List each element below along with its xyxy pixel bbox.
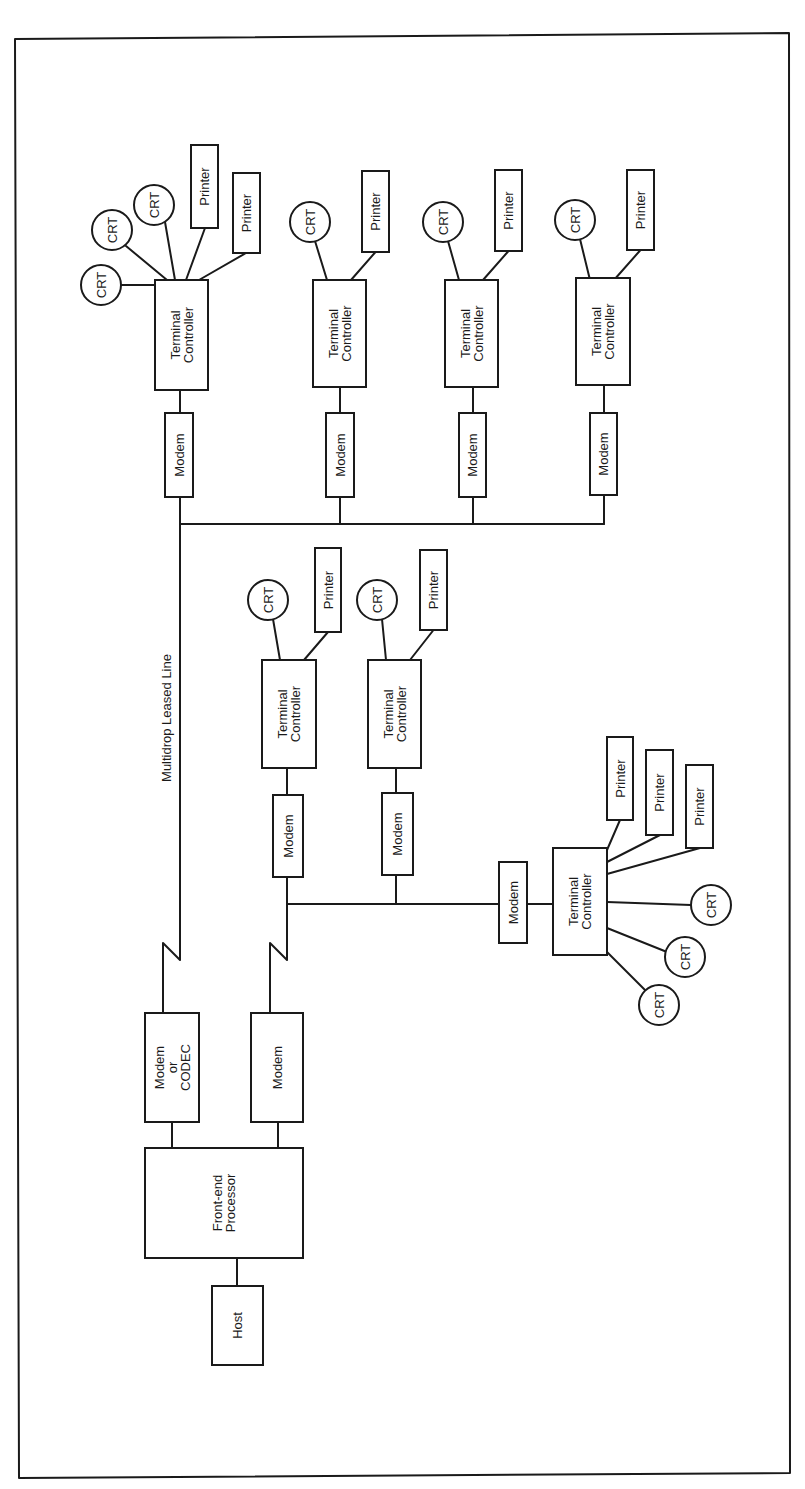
modem-or-codec-label-line: CODEC (178, 1044, 193, 1091)
crt-terminal-label-line: CRT (568, 207, 583, 234)
printer-label: Printer (501, 191, 516, 230)
printer-label-line: Printer (368, 192, 383, 231)
connector-line (607, 835, 660, 862)
modem-label-line: Modem (596, 432, 611, 475)
host-box-label-line: Host (230, 1312, 245, 1339)
crt-terminal-label-line: CRT (678, 944, 693, 971)
printer-label: Printer (426, 570, 441, 609)
crt-terminal-label-line: CRT (436, 209, 451, 236)
printer-label-line: Printer (652, 773, 667, 812)
printer-label-line: Printer (633, 190, 648, 229)
crt-terminal-label: CRT (436, 209, 451, 236)
printer-label: Printer (613, 759, 628, 798)
crt-terminal-label: CRT (704, 892, 719, 919)
crt-terminal-label: CRT (94, 272, 109, 299)
terminal-controller-label: TerminalController (589, 303, 617, 360)
printer-label: Printer (633, 190, 648, 229)
modem-label-line: Modem (333, 433, 348, 476)
front-end-processor-label: Front-endProcessor (210, 1173, 238, 1232)
printer-label: Printer (197, 167, 212, 206)
connector-line (614, 250, 641, 280)
connector-line (483, 251, 509, 280)
crt-terminal-label-line: CRT (94, 272, 109, 299)
modem-label-line: Modem (172, 433, 187, 476)
terminal-controller-label: TerminalController (275, 685, 303, 742)
printer-label: Printer (368, 192, 383, 231)
connector-line (410, 630, 434, 660)
crt-terminal-label: CRT (370, 587, 385, 614)
crt-terminal-label-line: CRT (370, 587, 385, 614)
modem-label: Modem (172, 433, 187, 476)
modem-label: Modem (270, 1046, 285, 1089)
modem-label-line: Modem (465, 433, 480, 476)
modem-label-line: Modem (270, 1046, 285, 1089)
modem-label: Modem (596, 432, 611, 475)
connector-line (607, 928, 667, 952)
printer-label: Printer (692, 787, 707, 826)
connector-line (607, 848, 700, 874)
terminal-controller-label: TerminalController (458, 305, 486, 362)
connector-line (607, 820, 620, 850)
printer-label-line: Printer (321, 570, 336, 609)
modem-label-line: Modem (506, 881, 521, 924)
modem-label: Modem (465, 433, 480, 476)
connector-line (165, 222, 175, 280)
connector-line (126, 246, 167, 280)
crt-terminal-label-line: CRT (261, 587, 276, 614)
printer-label-line: Printer (692, 787, 707, 826)
crt-terminal-label: CRT (652, 992, 667, 1019)
connector-line (382, 619, 386, 660)
modem-label: Modem (390, 812, 405, 855)
crt-terminal-label: CRT (678, 944, 693, 971)
crt-terminal-label-line: CRT (652, 992, 667, 1019)
crt-terminal-label-line: CRT (147, 192, 162, 219)
terminal-controller-label-line: Controller (288, 685, 303, 742)
printer-label-line: Printer (501, 191, 516, 230)
modem-label: Modem (506, 881, 521, 924)
connector-line (351, 252, 376, 280)
crt-terminal-label-line: CRT (704, 892, 719, 919)
printer-label-line: Printer (197, 167, 212, 206)
modem-label-line: Modem (281, 814, 296, 857)
terminal-controller-label: TerminalController (566, 873, 594, 930)
connector-line (199, 253, 246, 280)
connector-line (186, 228, 205, 280)
printer-label-line: Printer (613, 759, 628, 798)
crt-terminal-label: CRT (303, 209, 318, 236)
terminal-controller-label-line: Controller (579, 873, 594, 930)
connector-line (607, 952, 645, 990)
host-box-label: Host (230, 1312, 245, 1339)
leased-line-label-line: Multidrop Leased Line (159, 654, 174, 782)
crt-terminal-label: CRT (105, 217, 120, 244)
modem-label: Modem (281, 814, 296, 857)
crt-terminal-label: CRT (568, 207, 583, 234)
connector-line (580, 239, 590, 280)
leased-line-label: Multidrop Leased Line (159, 654, 174, 782)
printer-label: Printer (321, 570, 336, 609)
printer-label-line: Printer (239, 193, 254, 232)
terminal-controller-label: TerminalController (168, 306, 196, 363)
printer-label: Printer (239, 193, 254, 232)
leased-line-lower (270, 904, 287, 1013)
modem-label-line: Modem (390, 812, 405, 855)
connector-line (304, 632, 328, 660)
connector-line (315, 241, 327, 280)
printer-label-line: Printer (426, 570, 441, 609)
printer-label: Printer (652, 773, 667, 812)
terminal-controller-label: TerminalController (326, 305, 354, 362)
crt-terminal-label: CRT (261, 587, 276, 614)
network-diagram: HostFront-endProcessorModemorCODECModemM… (0, 0, 805, 1489)
connector-line (607, 902, 691, 905)
terminal-controller-label-line: Controller (602, 303, 617, 360)
terminal-controller-label-line: Controller (181, 306, 196, 363)
connector-line (448, 241, 459, 280)
front-end-processor-label-line: Processor (223, 1173, 238, 1232)
modem-label: Modem (333, 433, 348, 476)
terminal-controller-label-line: Controller (394, 685, 409, 742)
crt-terminal-label-line: CRT (303, 209, 318, 236)
terminal-controller-label-line: Controller (471, 305, 486, 362)
connector-line (273, 619, 280, 660)
terminal-controller-label: TerminalController (381, 685, 409, 742)
terminal-controller-label-line: Controller (339, 305, 354, 362)
crt-terminal-label: CRT (147, 192, 162, 219)
